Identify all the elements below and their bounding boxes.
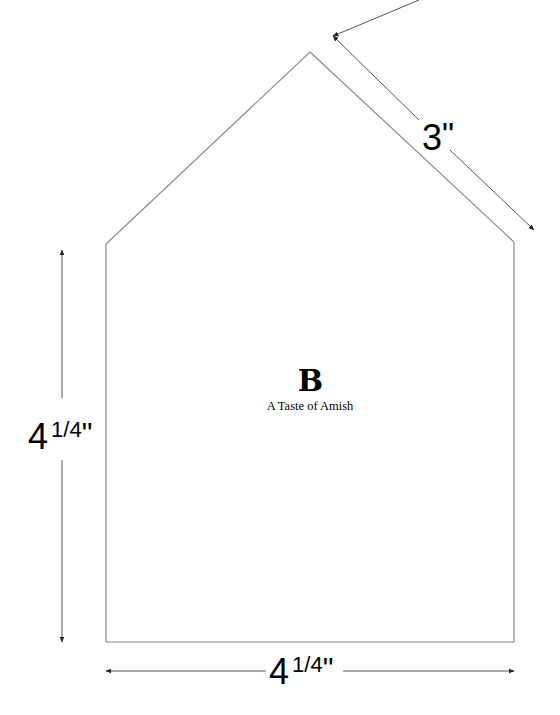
brand-logo: B <box>240 366 380 396</box>
brand-name: A Taste of Amish <box>240 399 380 414</box>
roof-dimension-label: 3" <box>422 117 454 156</box>
height-dimension-label: 41/4" <box>28 418 92 455</box>
height-dimension-whole: 4 <box>28 416 48 457</box>
brand-block: B A Taste of Amish <box>240 366 380 414</box>
height-dimension-unit: " <box>82 416 93 449</box>
width-dimension-whole: 4 <box>269 651 289 692</box>
height-dimension-fraction: 1/4 <box>51 417 82 442</box>
house-template-diagram <box>0 0 560 715</box>
roof-dimension-value: 3 <box>422 117 442 158</box>
width-dimension-label: 41/4" <box>269 653 333 690</box>
roof-dimension-arrow-lower <box>450 150 534 230</box>
roof-dimension-arrow-upper <box>333 36 419 120</box>
roof-dimension-arrow-upper <box>333 0 419 36</box>
width-dimension-fraction: 1/4 <box>292 652 323 677</box>
width-dimension-unit: " <box>323 651 334 684</box>
roof-dimension-unit: " <box>442 115 454 153</box>
